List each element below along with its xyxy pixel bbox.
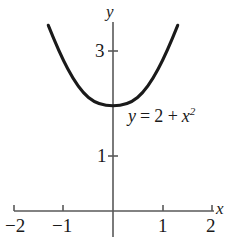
- equation-exponent: 2: [190, 105, 196, 117]
- equation-annotation: y=2 +x2: [128, 107, 195, 125]
- x-axis-label: x: [216, 200, 224, 217]
- x-tick-label-1: 1: [158, 216, 168, 235]
- plot-canvas: [0, 0, 230, 247]
- equation-constant: 2 +: [154, 106, 178, 126]
- y-tick-label-3: 3: [95, 41, 105, 60]
- x-tick-label--1: −1: [52, 216, 72, 235]
- equation-lhs: y: [128, 106, 136, 126]
- equation-variable: x: [178, 106, 190, 126]
- y-axis-label: y: [106, 3, 114, 20]
- y-tick-label-1: 1: [97, 146, 107, 165]
- x-tick-label--2: −2: [5, 216, 25, 235]
- equation-equals: =: [136, 106, 154, 126]
- parabola-figure: −2 −1 1 2 3 1 x y y=2 +x2: [0, 0, 230, 247]
- x-tick-label-2: 2: [206, 216, 216, 235]
